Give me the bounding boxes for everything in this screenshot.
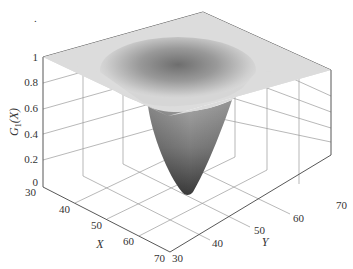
y-tick: 60: [293, 212, 305, 224]
z-tick: 0.2: [24, 153, 38, 165]
surface: [43, 12, 331, 195]
z-tick: 0.4: [24, 128, 38, 140]
x-tick: 60: [123, 235, 135, 247]
y-tick: 70: [336, 199, 348, 211]
y-axis-ticks: 30 40 50 60 70: [172, 199, 348, 264]
y-tick: 30: [172, 252, 184, 264]
x-tick: 30: [25, 186, 37, 198]
stray-mark: .: [34, 12, 37, 24]
z-axis-label: G1(X): [7, 108, 23, 136]
surface-plot: .: [0, 0, 353, 269]
x-axis-ticks: 30 40 50 60 70: [25, 186, 166, 264]
y-axis-label: Y: [262, 235, 270, 249]
z-axis-ticks: 1 0.8 0.6 0.4 0.2 0: [24, 51, 38, 188]
y-tick: 40: [212, 237, 224, 249]
z-tick: 0.6: [24, 102, 38, 114]
x-tick: 50: [91, 219, 103, 231]
x-axis-label: X: [95, 237, 104, 251]
z-tick: 1: [33, 51, 39, 63]
z-tick: 0.8: [24, 76, 38, 88]
x-tick: 40: [59, 203, 71, 215]
x-tick: 70: [154, 252, 166, 264]
